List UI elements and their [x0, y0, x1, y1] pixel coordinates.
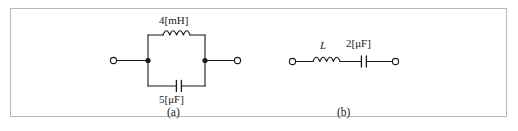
circuit-a-left-terminal [110, 57, 116, 63]
circuit-diagram-canvas [0, 0, 518, 131]
circuit-a-caption: (a) [167, 107, 180, 119]
figure-root: 4[mH] 5[μF] (a) L 2[μF] (b) [0, 0, 518, 131]
circuit-b-inductor-symbol [313, 57, 340, 61]
circuit-b-group [289, 56, 398, 67]
circuit-b-left-terminal [289, 58, 295, 64]
circuit-a-inductor-label: 4[mH] [159, 15, 188, 26]
circuit-a-inductor-symbol [163, 31, 190, 35]
circuit-b-right-terminal [392, 58, 398, 64]
circuit-b-caption: (b) [337, 107, 350, 119]
circuit-a-right-junction-dot [202, 58, 207, 63]
circuit-b-inductor-label: L [320, 40, 326, 51]
circuit-b-capacitor-label: 2[μF] [346, 38, 371, 49]
circuit-a-capacitor-label: 5[μF] [159, 94, 184, 105]
circuit-a-right-terminal [234, 57, 240, 63]
circuit-a-group [110, 31, 240, 92]
circuit-a-left-junction-dot [145, 58, 150, 63]
